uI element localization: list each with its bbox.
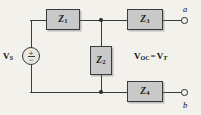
impedance-z3-label: Z3 xyxy=(140,15,149,25)
junction-top-node xyxy=(99,18,103,22)
ac-voltage-source[interactable]: + − xyxy=(22,47,40,65)
wire-z3-to-terminal-a xyxy=(163,20,182,22)
wire-left-source-to-bottom xyxy=(31,65,33,93)
source-minus-sign: − xyxy=(28,57,33,62)
impedance-z3[interactable]: Z3 xyxy=(127,9,163,30)
wire-z4-to-terminal-b xyxy=(163,92,182,94)
equation-left-subscript: OC xyxy=(141,55,150,61)
impedance-z1[interactable]: Z1 xyxy=(46,9,80,30)
junction-bottom-node xyxy=(99,90,103,94)
circuit-diagram-canvas: Z1 Z2 Z3 Z4 + − VS a b VOC=VT xyxy=(0,0,201,115)
terminal-a-label: a xyxy=(183,5,187,14)
impedance-z1-label: Z1 xyxy=(58,15,67,25)
equation-operator: = xyxy=(150,51,157,61)
wire-bottom-left-to-node xyxy=(30,92,102,94)
wire-node-to-z3 xyxy=(101,20,127,22)
source-plus-sign: + xyxy=(28,50,33,55)
source-label: VS xyxy=(3,52,13,62)
voc-equation: VOC=VT xyxy=(134,52,167,62)
impedance-z2[interactable]: Z2 xyxy=(90,46,112,75)
wire-node-to-z2-top xyxy=(101,20,103,47)
wire-top-left-to-z1 xyxy=(30,20,46,22)
impedance-z4-label: Z4 xyxy=(140,87,149,97)
impedance-z4[interactable]: Z4 xyxy=(127,81,163,102)
terminal-b-label: b xyxy=(183,101,187,110)
wire-node-to-z4 xyxy=(101,92,127,94)
wire-left-top-to-source xyxy=(31,20,33,48)
impedance-z2-label: Z2 xyxy=(96,56,105,66)
terminal-a[interactable] xyxy=(181,17,188,24)
terminal-b[interactable] xyxy=(181,89,188,96)
equation-right-subscript: T xyxy=(163,54,167,61)
